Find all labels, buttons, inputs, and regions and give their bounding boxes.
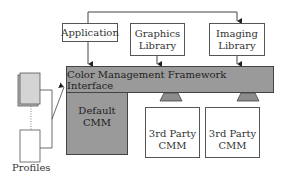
third-party-cmm-2-label-1: 3rd Party [209,128,256,140]
default-cmm-label-1: Default [78,105,115,117]
default-cmm-label-2: CMM [83,117,111,129]
application-box: Application [62,23,118,42]
third-party-cmm-1-label-2: CMM [158,140,186,152]
third-party-cmm-box-1: 3rd Party CMM [145,107,200,158]
imaging-library-label-2: Library [218,40,255,52]
third-party-cmm-box-2: 3rd Party CMM [205,107,260,158]
graphics-library-label-2: Library [139,40,176,52]
framework-label: Color Management Framework Interface [67,69,273,91]
graphics-library-label-1: Graphics [135,28,181,40]
profiles-label: Profiles [12,162,50,173]
framework-interface-bar: Color Management Framework Interface [66,66,274,93]
third-party-cmm-2-label-2: CMM [218,140,246,152]
graphics-library-box: Graphics Library [130,23,185,56]
application-label: Application [61,27,119,39]
default-cmm-box: Default CMM [66,92,128,155]
profiles-stack [18,73,64,162]
imaging-library-box: Imaging Library [209,23,265,56]
third-party-cmm-1-label-1: 3rd Party [149,128,196,140]
top-connector [88,12,237,23]
imaging-library-label-1: Imaging [216,28,258,40]
